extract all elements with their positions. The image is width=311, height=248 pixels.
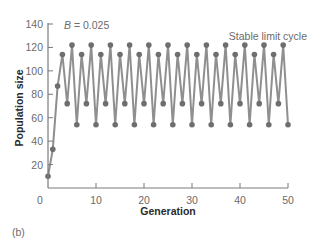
panel-label: (b) [12, 226, 25, 238]
data-point [228, 122, 234, 128]
data-point [141, 101, 147, 107]
data-point [242, 42, 248, 48]
data-point [156, 52, 162, 58]
data-point [122, 101, 128, 107]
data-point [136, 52, 142, 58]
y-tick-label: 140 [25, 18, 43, 30]
data-point [175, 52, 181, 58]
data-point [194, 52, 200, 58]
data-point [232, 52, 238, 58]
data-point [261, 42, 267, 48]
data-point [64, 101, 70, 107]
x-axis-title: Generation [140, 205, 195, 217]
data-point [180, 101, 186, 107]
data-point [218, 101, 224, 107]
data-point [271, 52, 277, 58]
data-point [252, 52, 258, 58]
parameter-annotation: B = 0.025 [64, 19, 109, 31]
data-point [223, 42, 229, 48]
data-point [280, 42, 286, 48]
data-point [199, 101, 205, 107]
x-tick-label: 10 [90, 194, 102, 206]
y-tick-label: 20 [31, 159, 43, 171]
x-tick-label: 50 [282, 194, 294, 206]
data-point [117, 52, 123, 58]
data-point [84, 101, 90, 107]
data-point [103, 101, 109, 107]
data-point [213, 52, 219, 58]
data-point [237, 101, 243, 107]
y-tick-label: 60 [31, 112, 43, 124]
data-point [285, 122, 291, 128]
data-point [127, 42, 133, 48]
population-line [48, 45, 288, 176]
data-point [50, 147, 56, 153]
y-tick-label: 80 [31, 88, 43, 100]
data-point [74, 122, 80, 128]
data-point [151, 122, 157, 128]
data-point [208, 122, 214, 128]
data-point [256, 101, 262, 107]
data-point [266, 122, 272, 128]
data-point [60, 52, 66, 58]
data-point [55, 83, 61, 89]
data-point [160, 101, 166, 107]
data-point [189, 122, 195, 128]
data-point [132, 122, 138, 128]
data-point [93, 122, 99, 128]
x-tick-label: 0 [37, 194, 43, 206]
y-tick-label: 120 [25, 41, 43, 53]
data-point [165, 42, 171, 48]
data-point [112, 122, 118, 128]
data-point [170, 122, 176, 128]
data-point [146, 42, 152, 48]
population-chart: 2040608010012014001020304050 B = 0.025 S… [0, 0, 311, 248]
y-axis-title: Population size [13, 69, 25, 146]
data-point [247, 122, 253, 128]
data-point [69, 42, 75, 48]
data-point [184, 42, 190, 48]
data-point [276, 101, 282, 107]
y-tick-label: 100 [25, 65, 43, 77]
data-point [204, 42, 210, 48]
plot-area [45, 42, 291, 179]
axes: 2040608010012014001020304050 [25, 18, 294, 206]
x-tick-label: 40 [234, 194, 246, 206]
data-point [108, 42, 114, 48]
data-point [98, 52, 104, 58]
y-tick-label: 40 [31, 135, 43, 147]
data-point [88, 42, 94, 48]
regime-annotation: Stable limit cycle [229, 30, 307, 42]
data-point [79, 52, 85, 58]
